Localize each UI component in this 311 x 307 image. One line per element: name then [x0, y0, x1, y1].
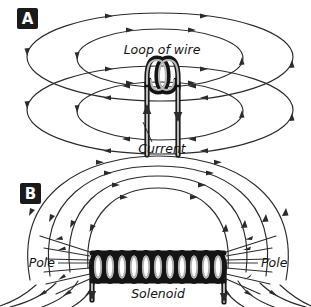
- pole-right-label: Pole: [261, 255, 288, 270]
- panel-b-badge-label: B: [25, 185, 36, 203]
- current-label: Current: [138, 141, 187, 156]
- figure-canvas: Loop of wire Current A: [0, 0, 311, 307]
- magnetic-field-figure: Loop of wire Current A: [0, 0, 311, 307]
- panel-b-badge: B: [20, 183, 41, 204]
- panel-a-badge: A: [17, 8, 38, 29]
- panel-a-badge-label: A: [22, 10, 34, 28]
- pole-left-label: Pole: [29, 255, 56, 270]
- loop-of-wire-label: Loop of wire: [124, 42, 201, 57]
- solenoid-label: Solenoid: [131, 286, 185, 301]
